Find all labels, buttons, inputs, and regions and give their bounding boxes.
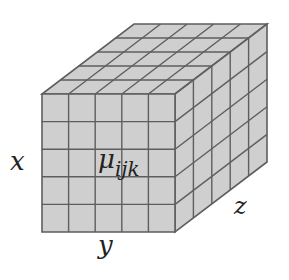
y-axis-label: y <box>98 230 113 260</box>
mu-ijk-label: μijk <box>98 144 140 179</box>
grid-cube-diagram: x y z μijk <box>0 0 289 280</box>
x-axis-label: x <box>10 146 25 176</box>
mu-subscript: ijk <box>115 157 140 181</box>
mu-symbol: μ <box>98 144 115 174</box>
cube-graphic <box>0 0 289 280</box>
z-axis-label: z <box>234 192 247 220</box>
